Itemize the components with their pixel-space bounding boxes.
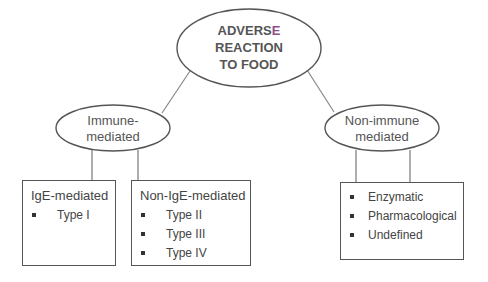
- bullet-icon: [350, 195, 354, 199]
- root-line-2: REACTION: [177, 39, 321, 56]
- list-item: Type I: [23, 206, 115, 225]
- non-ige-mediated-box: Non-IgE-mediated Type II Type III Type I…: [131, 180, 251, 266]
- ige-mediated-box: IgE-mediated Type I: [22, 180, 116, 266]
- list-item: Type IV: [132, 244, 250, 263]
- box-title: Non-IgE-mediated: [140, 188, 250, 203]
- root-line-1: ADVERSE: [177, 22, 321, 39]
- non-immune-box: Enzymatic Pharmacological Undefined: [340, 182, 464, 260]
- bullet-icon: [141, 213, 145, 217]
- immune-node: Immune- mediated: [56, 113, 170, 145]
- root-line-3: TO FOOD: [177, 56, 321, 73]
- box-title: IgE-mediated: [31, 188, 115, 203]
- root-node: ADVERSE REACTION TO FOOD: [177, 22, 321, 73]
- list-item: Type II: [132, 206, 250, 225]
- list-item: Type III: [132, 225, 250, 244]
- bullet-icon: [350, 214, 354, 218]
- bullet-icon: [32, 213, 36, 217]
- bullet-icon: [141, 251, 145, 255]
- list-item: Pharmacological: [341, 207, 463, 226]
- bullet-icon: [350, 233, 354, 237]
- list-item: Undefined: [341, 226, 463, 245]
- bullet-icon: [141, 232, 145, 236]
- non-immune-node: Non-immune mediated: [325, 113, 439, 145]
- list-item: Enzymatic: [341, 188, 463, 207]
